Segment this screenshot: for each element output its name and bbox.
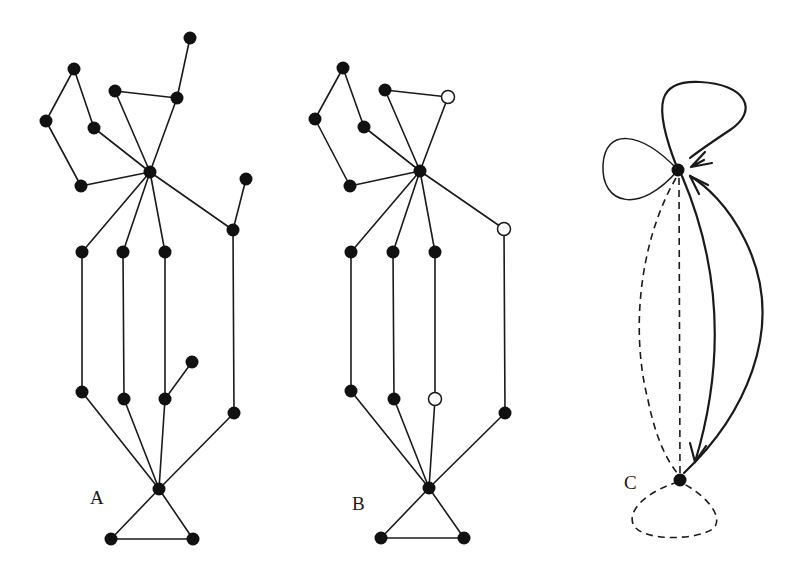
filled-vertex xyxy=(414,165,427,178)
filled-vertex xyxy=(118,393,131,406)
graph-edge xyxy=(111,489,159,539)
panel-c-curves xyxy=(603,82,762,538)
filled-vertex xyxy=(429,246,442,259)
filled-vertex xyxy=(388,393,401,406)
graph-edge xyxy=(150,98,177,172)
graph-edge xyxy=(82,392,159,489)
graph-edge xyxy=(420,171,504,229)
graph-edge xyxy=(420,97,448,171)
filled-vertex xyxy=(186,356,199,369)
panel-c-multigraph: C xyxy=(603,82,762,538)
filled-vertex xyxy=(40,115,53,128)
graph-edge xyxy=(150,172,165,252)
filled-vertex xyxy=(68,63,81,76)
panel-b-graph: B xyxy=(309,62,512,545)
graph-edge xyxy=(315,119,350,186)
filled-vertex xyxy=(227,224,240,237)
graph-edge xyxy=(393,252,394,399)
filled-vertex xyxy=(375,532,388,545)
graph-edge xyxy=(46,69,74,121)
panel-a-graph: A xyxy=(40,32,253,546)
open-vertex xyxy=(429,393,442,406)
filled-vertex xyxy=(345,385,358,398)
graph-edge xyxy=(159,399,165,489)
filled-vertex xyxy=(345,246,358,259)
open-vertex xyxy=(442,91,455,104)
filled-vertex xyxy=(109,85,122,98)
graph-edge xyxy=(364,127,420,171)
graph-edge xyxy=(233,179,246,230)
upper-loop xyxy=(662,82,746,170)
panel-a-nodes xyxy=(40,32,253,546)
filled-vertex xyxy=(153,483,166,496)
filled-vertex xyxy=(105,533,118,546)
graph-figure: A B C xyxy=(0,0,811,576)
graph-edge xyxy=(165,362,192,399)
filled-vertex xyxy=(672,164,685,177)
straight-dashed-edge xyxy=(679,178,680,474)
left-loop xyxy=(603,139,678,200)
filled-vertex xyxy=(75,180,88,193)
graph-edge xyxy=(315,68,343,119)
filled-vertex xyxy=(228,407,241,420)
graph-edge xyxy=(124,399,159,489)
graph-edge xyxy=(123,172,150,252)
graph-edge xyxy=(393,171,420,252)
panel-c-arrowheads xyxy=(690,152,712,462)
graph-edge xyxy=(94,128,150,172)
graph-edge xyxy=(150,172,233,230)
filled-vertex xyxy=(309,113,322,126)
panel-a-label: A xyxy=(90,487,104,508)
graph-edge xyxy=(429,413,505,488)
graph-edge xyxy=(159,489,193,539)
graph-edge xyxy=(420,171,435,252)
filled-vertex xyxy=(159,246,172,259)
graph-edge xyxy=(46,121,81,186)
filled-vertex xyxy=(387,246,400,259)
filled-vertex xyxy=(184,32,197,45)
filled-vertex xyxy=(187,533,200,546)
filled-vertex xyxy=(88,122,101,135)
graph-edge xyxy=(177,38,190,98)
filled-vertex xyxy=(144,166,157,179)
filled-vertex xyxy=(76,386,89,399)
panel-c-label: C xyxy=(624,472,637,493)
panel-a-edges xyxy=(46,38,246,539)
graph-edge xyxy=(123,252,124,399)
outer-solid-edge xyxy=(684,176,762,473)
inner-solid-edge xyxy=(682,176,715,462)
bottom-dashed-loop xyxy=(632,482,717,538)
filled-vertex xyxy=(337,62,350,75)
filled-vertex xyxy=(499,407,512,420)
filled-vertex xyxy=(458,532,471,545)
panel-b-nodes xyxy=(309,62,512,545)
graph-edge xyxy=(429,488,464,538)
graph-edge xyxy=(504,229,505,413)
graph-edge xyxy=(385,90,448,97)
graph-edge xyxy=(115,91,177,98)
graph-edge xyxy=(381,488,429,538)
panel-b-edges xyxy=(315,68,505,538)
filled-vertex xyxy=(358,121,371,134)
graph-edge xyxy=(159,413,234,489)
graph-edge xyxy=(351,391,429,488)
filled-vertex xyxy=(344,180,357,193)
filled-vertex xyxy=(159,393,172,406)
graph-edge xyxy=(115,91,150,172)
open-vertex xyxy=(498,223,511,236)
outer-dashed-edge xyxy=(639,178,678,474)
graph-edge xyxy=(233,230,234,413)
graph-edge xyxy=(385,90,420,171)
graph-edge xyxy=(343,68,364,127)
filled-vertex xyxy=(76,246,89,259)
filled-vertex xyxy=(674,474,687,487)
graph-edge xyxy=(394,399,429,488)
filled-vertex xyxy=(423,482,436,495)
filled-vertex xyxy=(379,84,392,97)
filled-vertex xyxy=(117,246,130,259)
graph-edge xyxy=(74,69,94,128)
graph-edge xyxy=(429,399,435,488)
filled-vertex xyxy=(240,173,253,186)
panel-b-label: B xyxy=(352,493,365,514)
filled-vertex xyxy=(171,92,184,105)
